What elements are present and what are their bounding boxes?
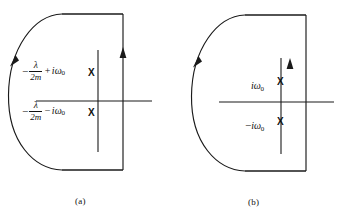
panel-a-pole-lower-omega-subscript: 0	[61, 110, 65, 117]
figure-root: − λ 2m + i ω 0 X − λ 2m − i ω 0	[0, 0, 345, 220]
panel-a-pole-upper-fraction: λ 2m	[29, 61, 42, 82]
panel-a-pole-lower-minus: −	[22, 106, 28, 117]
panel-b-pole-label-lower: − i ω 0	[245, 116, 265, 132]
panel-a-pole-marker-lower: X	[88, 108, 95, 118]
panel-b-arc-path	[191, 15, 306, 171]
panel-b-caption: (b)	[248, 197, 259, 207]
panel-a-caption: (a)	[75, 196, 86, 206]
panel-a-pole-lower-fraction: λ 2m	[29, 101, 42, 122]
panel-b-pole-marker-upper: X	[277, 77, 284, 87]
panel-a-pole-upper-numerator: λ	[33, 61, 39, 71]
panel-a-pole-lower-denominator: 2m	[29, 112, 42, 122]
panel-b-contour	[191, 15, 306, 171]
panel-a-pole-upper-denominator: 2m	[29, 72, 42, 82]
panel-a-pole-upper-minus: −	[22, 66, 28, 77]
panel-b-pole-marker-lower: X	[277, 117, 284, 127]
panel-a-contour	[8, 14, 123, 170]
panel-b-pole-upper-omega-subscript: 0	[261, 86, 265, 93]
panel-a-pole-label-lower: − λ 2m − i ω 0	[22, 101, 65, 122]
panel-a-vertical-arrowhead	[120, 47, 127, 58]
panel-a-pole-lower-numerator: λ	[33, 101, 39, 111]
panel-a-pole-upper-omega-subscript: 0	[61, 70, 65, 77]
panel-a-pole-marker-upper: X	[88, 68, 95, 78]
panel-a-arc-path	[8, 14, 123, 170]
panel-a-pole-lower-operator: −	[45, 106, 51, 116]
panel-b-pole-label-upper: i ω 0	[251, 76, 264, 92]
panel-b-vertical-arrowhead	[287, 58, 294, 69]
panel-a-pole-upper-operator: +	[45, 66, 51, 76]
panel-a-pole-label-upper: − λ 2m + i ω 0	[22, 61, 65, 82]
panel-b-pole-lower-omega-subscript: 0	[261, 126, 265, 133]
